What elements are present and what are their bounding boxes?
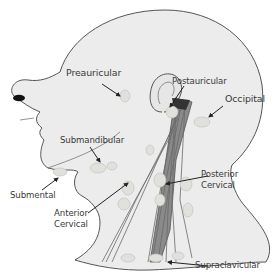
node-supraclavicular-2 [149,254,163,262]
label-submental: Submental [10,190,56,200]
node-postauricular [166,106,178,118]
node-supraclavicular-3 [172,252,184,260]
node-cervical-1 [146,145,154,155]
label-preauricular: Preauricular [66,68,121,78]
node-supraclavicular-1 [121,254,135,262]
node-submandibular-2 [107,162,117,170]
node-cervical-4 [154,173,166,187]
node-cervical-3 [118,198,130,210]
label-anterior-cervical-2: Cervical [54,219,88,229]
lip-line [20,118,34,120]
label-posterior-cervical-2: Cervical [201,180,235,190]
head-silhouette [12,10,270,270]
label-occipital: Occipital [225,94,265,104]
label-anterior-cervical-1: Anterior [54,208,88,218]
label-postauricular: Postauricular [172,76,227,86]
node-submandibular-1 [90,163,106,173]
label-submandibular: Submandibular [60,135,124,145]
node-submental [53,168,67,176]
node-cervical-5 [155,194,165,206]
node-cervical-7 [183,203,193,217]
lymph-node-diagram: Preauricular Postauricular Occipital Sub… [0,0,273,280]
arrow-submental [42,178,58,190]
label-supraclavicular: Supraclavicular [195,260,260,270]
nostril-icon [13,95,25,102]
head-neck-illustration [0,0,273,280]
node-preauricular [120,90,130,102]
node-occipital [194,117,210,127]
label-posterior-cervical-1: Posterior [201,169,238,179]
